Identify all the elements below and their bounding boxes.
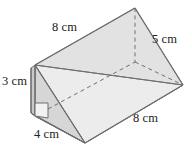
dimension-label-bottom-length: 8 cm: [133, 112, 158, 125]
dimension-label-base-width: 4 cm: [34, 128, 59, 141]
geometry-figure: 8 cm 5 cm 3 cm 8 cm 4 cm: [0, 0, 192, 151]
triangular-prism-drawing: [0, 0, 192, 151]
dimension-label-left-height: 3 cm: [2, 75, 27, 88]
dimension-label-right-slant: 5 cm: [152, 33, 177, 46]
right-angle-marker: [35, 103, 48, 118]
dimension-label-top-slant: 8 cm: [52, 21, 77, 34]
